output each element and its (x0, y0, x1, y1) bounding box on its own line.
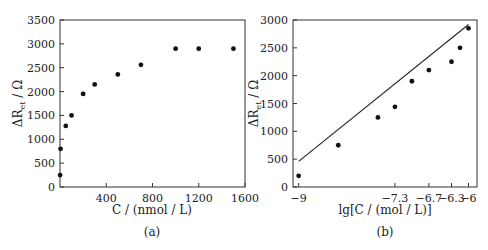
y-tick-label: 1000 (27, 133, 55, 146)
y-tick-label: 1000 (260, 125, 288, 138)
y-axis-label: ΔRet / Ω (247, 80, 263, 127)
x-axis-label: C / (nmol / L) (112, 203, 192, 217)
data-point (336, 143, 341, 148)
data-point (139, 62, 144, 67)
y-tick-label: 2000 (260, 70, 288, 83)
fit-line (299, 24, 469, 161)
x-tick-label: −6 (460, 192, 476, 205)
data-point (115, 72, 120, 77)
data-point (58, 173, 63, 178)
data-point (376, 115, 381, 120)
y-tick-label: 1500 (27, 109, 55, 122)
y-axis-label: ΔRet / Ω (11, 80, 27, 127)
y-tick-label: 2500 (260, 42, 288, 55)
x-axis-label: lg[C / (mol / L)] (338, 203, 431, 217)
panel-a: 0500100015002000250030003500400800120016… (11, 14, 259, 239)
chart-figure: 0500100015002000250030003500400800120016… (0, 0, 488, 250)
data-point (449, 59, 454, 64)
y-tick-label: 500 (34, 157, 55, 170)
data-point (466, 26, 471, 31)
data-point (393, 104, 398, 109)
plot-frame (293, 20, 477, 187)
plot-frame (60, 20, 245, 187)
panel-b: 050010001500200025003000−9−7.3−6.7−6.3−6… (247, 14, 477, 239)
data-point (92, 82, 97, 87)
y-tick-label: 0 (48, 181, 55, 194)
data-point (231, 46, 236, 51)
panel-label: (b) (376, 225, 393, 239)
y-tick-label: 0 (281, 181, 288, 194)
data-point (426, 68, 431, 73)
data-point (296, 173, 301, 178)
data-point (69, 113, 74, 118)
data-point (458, 45, 463, 50)
x-tick-label: 1600 (231, 192, 259, 205)
y-tick-label: 3000 (27, 38, 55, 51)
data-point (81, 92, 86, 97)
y-tick-label: 3500 (27, 14, 55, 27)
y-tick-label: 2000 (27, 86, 55, 99)
data-point (58, 146, 63, 151)
data-point (63, 124, 68, 129)
panel-label: (a) (144, 225, 161, 239)
x-tick-label: −9 (291, 192, 307, 205)
y-tick-label: 500 (267, 153, 288, 166)
data-point (196, 46, 201, 51)
y-tick-label: 2500 (27, 62, 55, 75)
data-point (409, 79, 414, 84)
y-tick-label: 1500 (260, 98, 288, 111)
data-point (173, 46, 178, 51)
y-tick-label: 3000 (260, 14, 288, 27)
